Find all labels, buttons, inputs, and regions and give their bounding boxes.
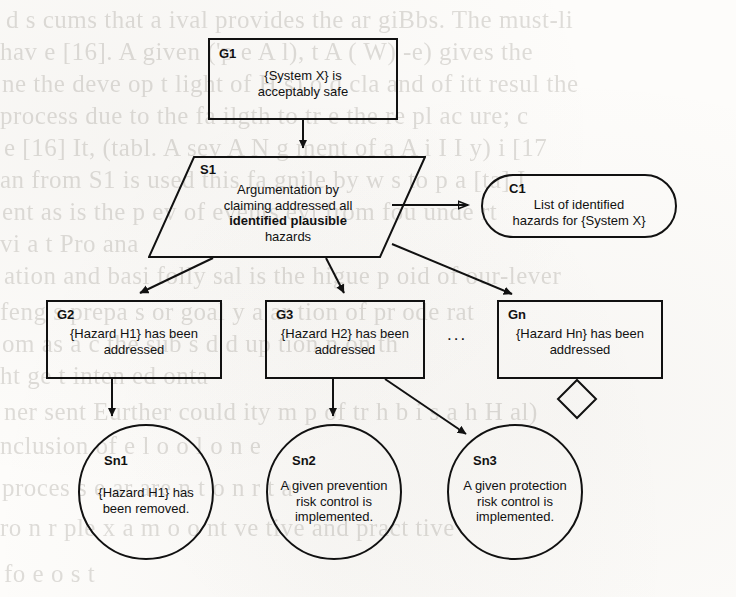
node-sn3-line2: risk control is xyxy=(477,494,553,509)
node-sn3-id: Sn3 xyxy=(473,453,497,468)
undeveloped-goal-diamond-icon xyxy=(556,378,598,420)
node-sn2-line2: risk control is xyxy=(296,494,372,509)
node-g2-line2: addressed xyxy=(104,342,165,357)
node-sn1-solution[interactable]: Sn1 {Hazard H1} has been removed. xyxy=(78,424,214,560)
node-g2-text: {Hazard H1} has been addressed xyxy=(54,326,214,357)
node-s1-id: S1 xyxy=(200,162,216,177)
node-gn-goal[interactable]: Gn {Hazard Hn} has been addressed xyxy=(497,300,663,379)
node-sn1-line2: been removed. xyxy=(103,501,190,516)
node-sn1-id: Sn1 xyxy=(104,453,128,468)
node-sn2-line3: implemented. xyxy=(295,509,373,524)
node-g3-goal[interactable]: G3 {Hazard H2} has been addressed xyxy=(265,300,425,379)
node-g3-line2: addressed xyxy=(315,342,376,357)
node-s1-line3: identified plausible xyxy=(229,213,347,228)
node-c1-text: List of identified hazards for {System X… xyxy=(493,197,665,228)
node-g1-text: {System X} is acceptably safe xyxy=(218,68,388,99)
node-g2-goal[interactable]: G2 {Hazard H1} has been addressed xyxy=(46,300,222,379)
node-sn3-line3: implemented. xyxy=(476,509,554,524)
diagram-nodes: G1 {System X} is acceptably safe S1 Argu… xyxy=(0,0,736,597)
node-g3-id: G3 xyxy=(276,307,293,322)
node-g3-line1: {Hazard H2} has been xyxy=(281,326,409,341)
node-c1-line1: List of identified xyxy=(534,197,624,212)
node-sn2-line1: A given prevention xyxy=(281,478,388,493)
node-s1-line1: Argumentation by xyxy=(237,182,339,197)
node-sn3-line1: A given protection xyxy=(463,478,566,493)
node-sn2-text: A given prevention risk control is imple… xyxy=(264,478,404,525)
node-c1-id: C1 xyxy=(509,181,526,196)
scanned-page: d s cums that a ival provides the ar giB… xyxy=(0,0,736,597)
node-sn1-text: {Hazard H1} has been removed. xyxy=(78,485,214,516)
node-sn2-id: Sn2 xyxy=(292,453,316,468)
node-sn3-solution[interactable]: Sn3 A given protection risk control is i… xyxy=(447,424,583,560)
ellipsis-more-goals: ... xyxy=(447,325,467,345)
node-sn1-line1: {Hazard H1} has xyxy=(98,485,193,500)
node-gn-line2: addressed xyxy=(550,342,611,357)
node-gn-text: {Hazard Hn} has been addressed xyxy=(501,326,659,357)
node-g2-id: G2 xyxy=(57,307,74,322)
node-c1-context[interactable]: C1 List of identified hazards for {Syste… xyxy=(481,174,677,238)
node-sn3-text: A given protection risk control is imple… xyxy=(445,478,585,525)
node-c1-line2: hazards for {System X} xyxy=(513,213,646,228)
node-gn-line1: {Hazard Hn} has been xyxy=(516,326,644,341)
node-gn-id: Gn xyxy=(508,307,526,322)
node-s1-line2: claiming addressed all xyxy=(224,198,353,213)
node-g1-line2: acceptably safe xyxy=(258,84,348,99)
node-s1-line4: hazards xyxy=(265,229,311,244)
node-s1-text: Argumentation by claiming addressed all … xyxy=(184,182,392,244)
node-g1-line1: {System X} is xyxy=(264,68,341,83)
node-g2-line1: {Hazard H1} has been xyxy=(70,326,198,341)
node-g1-goal[interactable]: G1 {System X} is acceptably safe xyxy=(208,38,398,120)
node-s1-strategy[interactable]: S1 Argumentation by claiming addressed a… xyxy=(148,156,426,258)
node-g3-text: {Hazard H2} has been addressed xyxy=(269,326,421,357)
node-g1-id: G1 xyxy=(219,46,236,61)
node-sn2-solution[interactable]: Sn2 A given prevention risk control is i… xyxy=(266,424,402,560)
